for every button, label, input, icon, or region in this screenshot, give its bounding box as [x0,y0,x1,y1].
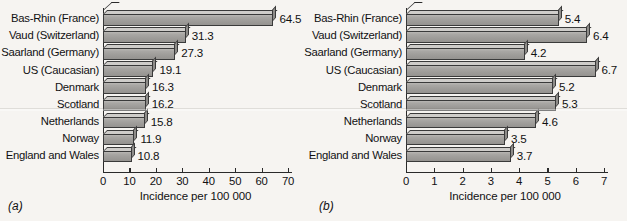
x-axis-line [103,172,292,173]
bar-value-label: 5.4 [565,12,581,25]
x-axis-tick-label: 50 [229,175,241,187]
bar-value-label: 6.4 [593,29,609,42]
bar-value-label: 3.7 [517,149,533,162]
category-label: Saarland (Germany) [1,46,99,58]
x-axis-tick-label: 30 [176,175,188,187]
bar-front-face [103,134,134,146]
bar-row[interactable] [406,117,536,129]
x-axis-tick-label: 10 [123,175,135,187]
category-label: Vaud (Switzerland) [9,29,99,41]
x-axis-tick-label: 60 [255,175,267,187]
bar-front-face [406,117,536,129]
category-label: Denmark [55,81,99,93]
bar-value-label: 10.8 [138,149,160,162]
bar-value-label: 15.8 [151,115,173,128]
bar-front-face [103,117,145,129]
x-axis-tick [156,168,157,172]
bar-row[interactable] [103,82,146,94]
x-axis-tick [235,168,236,172]
x-axis-tick-label: 1 [431,175,437,187]
category-label: Netherlands [344,115,402,127]
bar-value-label: 4.6 [542,115,558,128]
x-axis-tick [103,168,104,172]
x-axis-title: Incidence per 100 000 [140,190,252,202]
bar-row[interactable] [406,65,596,77]
x-axis-tick [209,168,210,172]
chart-panel-b: Bas-Rhin (France) 5.4Vaud (Switzerland) … [313,0,627,221]
bar-front-face [406,14,559,26]
x-axis-tick-label: 4 [516,175,522,187]
x-axis-tick-label: 6 [573,175,579,187]
plot-area-b: Bas-Rhin (France) 5.4Vaud (Switzerland) … [313,0,627,221]
bar-row[interactable] [103,117,145,129]
x-axis-tick-label: 0 [100,175,106,187]
bar-front-face [406,82,553,94]
x-axis-tick [576,168,577,172]
bar-row[interactable] [103,134,134,146]
y-axis-3d-cap [103,2,120,10]
category-label: England and Wales [309,149,402,161]
x-axis-line [406,172,608,173]
bar-row[interactable] [406,31,587,43]
category-label: Saarland (Germany) [304,46,402,58]
category-label: Denmark [358,81,402,93]
bar-row[interactable] [406,100,556,112]
x-axis-tick [182,168,183,172]
category-label: Bas-Rhin (France) [11,12,99,24]
bar-front-face [103,48,175,60]
bar-value-label: 19.1 [159,63,181,76]
x-axis-tick [604,168,605,172]
bar-value-label: 11.9 [140,132,161,145]
bar-value-label: 6.7 [602,63,618,76]
bar-row[interactable] [103,48,175,60]
x-axis-tick [129,168,130,172]
category-label: Netherlands [41,115,99,127]
figure-label-b: (b) [319,199,334,213]
bar-row[interactable] [103,151,132,163]
chart-panel-a: Bas-Rhin (France) 64.5Vaud (Switzerland)… [0,0,313,221]
bar-row[interactable] [406,151,511,163]
category-label: Scotland [57,98,99,110]
x-axis-tick [547,168,548,172]
x-axis-tick-label: 70 [282,175,294,187]
bar-front-face [406,48,525,60]
bar-row[interactable] [406,48,525,60]
bar-row[interactable] [406,14,559,26]
category-label: Bas-Rhin (France) [314,12,402,24]
x-axis-tick [288,168,289,172]
category-label: US (Caucasian) [326,64,402,76]
bar-front-face [406,65,596,77]
bar-front-face [103,151,132,163]
x-axis-tick-label: 20 [150,175,162,187]
bar-value-label: 5.3 [562,97,578,110]
bar-front-face [406,100,556,112]
bar-value-label: 16.2 [152,97,174,110]
category-label: Vaud (Switzerland) [312,29,402,41]
x-axis-tick-label: 2 [460,175,466,187]
bar-value-label: 31.3 [192,29,214,42]
plot-area-a: Bas-Rhin (France) 64.5Vaud (Switzerland)… [0,0,313,221]
bar-row[interactable] [406,82,553,94]
bar-front-face [406,151,511,163]
bar-value-label: 4.2 [531,46,547,59]
category-label: US (Caucasian) [23,64,99,76]
x-axis-title: Incidence per 100 000 [449,190,561,202]
bar-value-label: 5.2 [559,80,575,93]
bar-row[interactable] [406,134,505,146]
x-axis-tick [463,168,464,172]
x-axis-tick-label: 0 [403,175,409,187]
x-axis-tick-label: 7 [601,175,607,187]
x-axis-tick-label: 3 [488,175,494,187]
x-axis-tick [434,168,435,172]
bar-value-label: 16.3 [152,80,174,93]
bar-value-label: 64.5 [279,12,301,25]
x-axis-tick [406,168,407,172]
bar-front-face [103,100,146,112]
x-axis-tick-label: 40 [203,175,215,187]
x-axis-tick [519,168,520,172]
figure-label-a: (a) [8,199,23,213]
category-label: England and Wales [6,149,99,161]
bar-row[interactable] [103,100,146,112]
bar-row[interactable] [103,31,186,43]
bar-front-face [406,31,587,43]
